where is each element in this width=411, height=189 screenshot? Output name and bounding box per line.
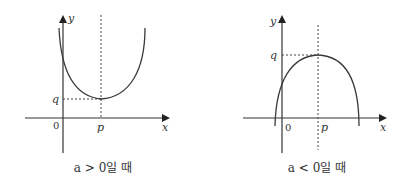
figure-canvas: y x 0 p q a > 0일 때 y x 0 p q a < 0일 때 [0,0,411,189]
y-axis-label: y [67,12,75,25]
parabola-left-half [59,28,101,99]
x-axis-label: x [162,121,169,134]
vertex-x-label: p [97,121,104,134]
caption: a < 0일 때 [288,161,346,175]
y-axis-label: y [269,15,277,28]
origin-label: 0 [285,122,291,133]
graph-a-negative: y x 0 p q a < 0일 때 [243,15,387,175]
vertex-x-label: p [321,121,328,134]
graph-a-positive: y x 0 p q a > 0일 때 [25,12,169,175]
origin-label: 0 [53,120,59,131]
caption: a > 0일 때 [74,161,132,175]
vertex-y-label: q [270,49,277,62]
parabola-right-half [101,28,145,99]
vertex-y-label: q [52,93,59,106]
parabola-right-half [318,55,359,126]
x-axis-label: x [380,121,387,134]
